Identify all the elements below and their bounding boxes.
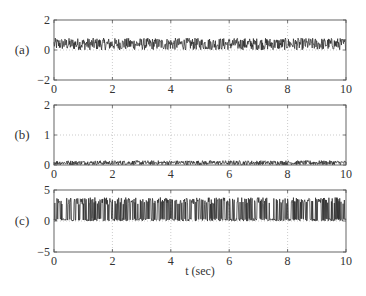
x-tick-label: 4: [168, 82, 174, 96]
x-tick-label: 6: [226, 82, 232, 96]
x-tick-label: 4: [168, 167, 174, 181]
panel-c: 0246810−505(c): [15, 183, 352, 268]
x-tick-label: 8: [285, 82, 291, 96]
panel-label: (a): [15, 42, 29, 57]
x-tick-label: 6: [226, 167, 232, 181]
y-tick-label: 2: [44, 13, 50, 27]
y-tick-label: 2: [44, 98, 50, 112]
y-tick-label: 5: [44, 183, 50, 197]
x-tick-label: 0: [51, 167, 57, 181]
x-tick-label: 8: [285, 167, 291, 181]
signal-line: [54, 38, 346, 50]
y-tick-label: 1: [44, 128, 50, 142]
figure: 0246810−202(a)0246810012(b)0246810−505(c…: [0, 0, 366, 296]
y-tick-label: −2: [37, 73, 50, 87]
y-tick-label: 0: [44, 158, 50, 172]
panel-label: (c): [15, 213, 29, 228]
x-tick-label: 2: [109, 82, 115, 96]
x-tick-label: 10: [340, 82, 352, 96]
axes-box: [54, 20, 346, 80]
y-tick-label: −5: [37, 245, 50, 259]
y-tick-label: 0: [44, 43, 50, 57]
panel-label: (b): [14, 127, 29, 142]
chart-canvas: 0246810−202(a)0246810012(b)0246810−505(c…: [0, 0, 366, 296]
signal-line: [54, 161, 346, 166]
x-axis-label: t (sec): [0, 264, 366, 279]
signal-line: [54, 197, 346, 221]
panel-b: 0246810012(b): [14, 98, 352, 181]
x-tick-label: 2: [109, 167, 115, 181]
y-tick-label: 0: [44, 214, 50, 228]
panel-a: 0246810−202(a): [15, 13, 352, 96]
x-tick-label: 10: [340, 167, 352, 181]
axes-box: [54, 105, 346, 165]
x-tick-label: 0: [51, 82, 57, 96]
